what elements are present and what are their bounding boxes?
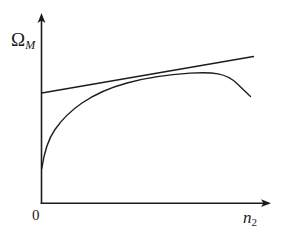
plot-svg <box>0 0 287 239</box>
y-axis-label-subscript: M <box>25 38 35 52</box>
x-axis-label-symbol: n <box>243 208 252 227</box>
x-axis <box>42 199 272 207</box>
x-axis-label-subscript: 2 <box>252 216 258 228</box>
y-axis-label-symbol: Ω <box>11 29 25 50</box>
y-axis-label: ΩM <box>11 30 35 51</box>
figure-container: ΩM n2 0 <box>0 0 287 239</box>
origin-label: 0 <box>32 208 40 223</box>
x-axis-label: n2 <box>243 209 257 228</box>
y-axis <box>38 13 46 203</box>
